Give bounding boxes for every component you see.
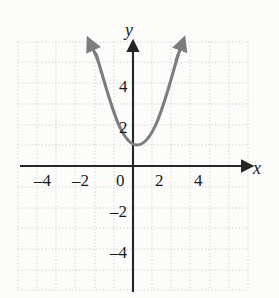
xtick-label-neg2: –2 [72,172,89,189]
xtick-label-pos4: 4 [194,172,203,189]
x-axis-label: x [253,159,261,177]
xtick-label-neg4: –4 [34,172,51,189]
origin-label-zero: 0 [116,172,125,189]
xtick-label-pos2: 2 [155,172,164,189]
graph-figure: x y –4 –2 0 2 4 4 2 –2 –4 [0,0,279,298]
parabola-curve [96,54,178,145]
ytick-label-neg2: –2 [110,203,127,220]
coordinate-plane [0,0,279,298]
ytick-label-neg4: –4 [110,244,127,261]
ytick-label-pos2: 2 [119,119,128,136]
y-axis-label: y [125,21,133,39]
ytick-label-pos4: 4 [119,78,128,95]
